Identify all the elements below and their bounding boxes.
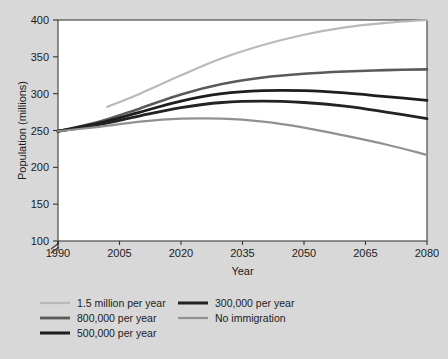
x-axis-title: Year [231,265,254,277]
population-projection-chart: 100150200250300350400 199020052020203520… [0,0,448,359]
y-axis-ticks: 100150200250300350400 [31,14,58,247]
legend-label: No immigration [215,312,286,324]
chart-legend: 1.5 million per year800,000 per year500,… [40,297,295,339]
legend-label: 500,000 per year [77,327,157,339]
y-axis-title: Population (millions) [16,81,28,180]
y-tick-label: 100 [31,235,49,247]
line-chart-canvas: 100150200250300350400 199020052020203520… [0,0,448,359]
y-tick-label: 250 [31,125,49,137]
y-tick-label: 150 [31,198,49,210]
x-tick-label: 2080 [415,247,439,259]
x-tick-label: 2035 [230,247,254,259]
y-tick-label: 350 [31,51,49,63]
y-tick-label: 300 [31,88,49,100]
x-tick-label: 2020 [169,247,193,259]
x-tick-label: 2050 [292,247,316,259]
legend-label: 1.5 million per year [77,297,166,309]
x-axis-ticks: 1990200520202035205020652080 [46,241,439,259]
y-tick-label: 200 [31,161,49,173]
x-tick-label: 2005 [107,247,131,259]
x-tick-label: 2065 [353,247,377,259]
y-tick-label: 400 [31,14,49,26]
legend-label: 800,000 per year [77,312,157,324]
legend-label: 300,000 per year [215,297,295,309]
plot-area [58,20,427,241]
plot-background [58,20,427,241]
